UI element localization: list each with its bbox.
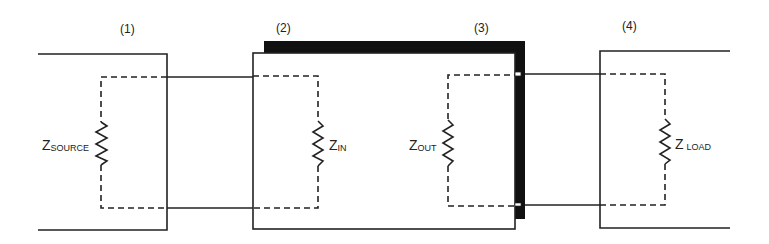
- stage-label-2: (2): [276, 21, 291, 35]
- z-in-label: ZIN: [329, 137, 347, 153]
- source-resistor-icon: [96, 122, 107, 165]
- terminal-bottom: [515, 203, 521, 206]
- stage-label-1: (1): [120, 22, 135, 36]
- z-load-label: ZLOAD: [675, 136, 711, 152]
- z-out-label: ZOUT: [409, 137, 437, 153]
- impedance-diagram: [0, 0, 769, 244]
- load-resistor-icon: [660, 119, 670, 164]
- device-block-outline: [253, 53, 515, 229]
- stage-label-3: (3): [474, 21, 489, 35]
- terminal-top: [515, 72, 521, 76]
- z-source-label: ZSOURCE: [42, 137, 89, 153]
- source-dashed-loop: [101, 77, 167, 122]
- load-dashed-loop: [600, 74, 665, 119]
- stage-label-4: (4): [622, 19, 637, 33]
